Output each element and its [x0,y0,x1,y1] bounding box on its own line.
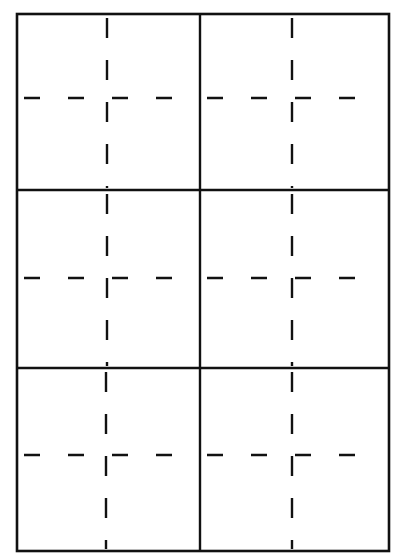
cell-0-1 [207,18,382,188]
outer-border [17,14,389,551]
cell-1-0 [24,194,193,366]
cell-1-1 [207,194,382,366]
cell-2-1 [207,372,382,549]
practice-grid-diagram [0,0,402,559]
cell-2-0 [24,372,193,549]
cell-0-0 [24,18,193,188]
